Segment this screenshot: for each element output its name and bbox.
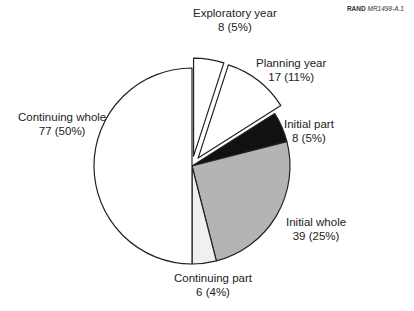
label-continuing-whole: Continuing whole 77 (50%) — [18, 110, 106, 138]
pie-slice-continuing-whole — [94, 68, 192, 264]
label-planning-year: Planning year 17 (11%) — [256, 56, 326, 84]
label-exploratory-year: Exploratory year 8 (5%) — [193, 6, 277, 34]
label-initial-whole: Initial whole 39 (25%) — [286, 215, 346, 243]
label-initial-part: Initial part 8 (5%) — [284, 117, 334, 145]
pie-chart — [0, 0, 414, 311]
label-continuing-part: Continuing part 6 (4%) — [174, 271, 252, 299]
